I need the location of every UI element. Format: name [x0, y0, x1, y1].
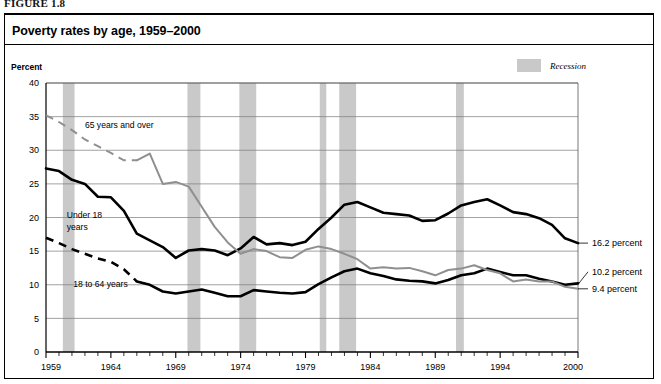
x-tick-label: 1959	[41, 362, 61, 372]
figure-page: FIGURE 1.8 Poverty rates by age, 1959–20…	[0, 0, 661, 384]
series-annotation: 18 to 64 years	[73, 279, 127, 289]
x-tick-label: 1994	[490, 362, 510, 372]
series-annotation: years	[67, 222, 88, 232]
x-tick-label: 1989	[425, 362, 445, 372]
x-tick-label: 1984	[360, 362, 380, 372]
y-tick-label: 40	[29, 78, 39, 88]
end-label-leader	[578, 272, 588, 285]
x-tick-label: 1974	[231, 362, 251, 372]
end-value-label: 10.2 percent	[592, 267, 643, 277]
y-tick-label: 25	[29, 179, 39, 189]
x-tick-label: 1964	[101, 362, 121, 372]
end-value-label: 16.2 percent	[592, 238, 643, 248]
y-tick-label: 20	[29, 213, 39, 223]
plot-area: 0510152025303540195919641969197419791984…	[0, 0, 661, 384]
series-line-solid	[46, 168, 578, 258]
series-annotation: 65 years and over	[85, 120, 154, 130]
series-annotation: Under 18	[67, 210, 103, 220]
y-tick-label: 5	[34, 314, 39, 324]
series-line-solid	[137, 269, 578, 297]
y-tick-label: 35	[29, 112, 39, 122]
series-line-dashed	[46, 238, 137, 282]
y-tick-label: 10	[29, 280, 39, 290]
x-tick-label: 1979	[295, 362, 315, 372]
x-tick-label: 2000	[563, 362, 583, 372]
chart-svg: 0510152025303540195919641969197419791984…	[0, 0, 661, 384]
y-tick-label: 15	[29, 246, 39, 256]
y-tick-label: 0	[34, 347, 39, 357]
x-tick-label: 1969	[166, 362, 186, 372]
end-value-label: 9.4 percent	[592, 284, 638, 294]
y-tick-label: 30	[29, 145, 39, 155]
